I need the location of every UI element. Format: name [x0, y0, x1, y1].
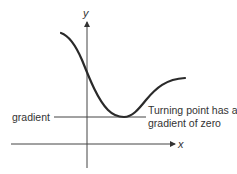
x-axis-label: x: [177, 138, 184, 150]
gradient-diagram: y x gradient Turning point has a gradien…: [0, 0, 237, 174]
gradient-label: gradient: [12, 111, 50, 123]
turning-point-label-line1: Turning point has a: [148, 104, 237, 116]
y-axis-label: y: [82, 7, 90, 19]
turning-point-label-line2: gradient of zero: [148, 117, 221, 129]
